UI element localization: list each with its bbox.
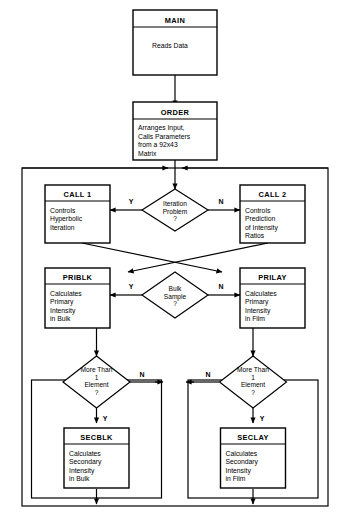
- node-call1-body-1: Hyperbolic: [50, 215, 83, 223]
- node-secblk-body-1: Secondary: [69, 458, 102, 466]
- decision-right-line-2: Element: [241, 381, 265, 388]
- node-order-body-1: Calls Parameters: [138, 133, 191, 140]
- decision-iteration-line-1: Problem: [163, 208, 188, 215]
- decision-right-line-0: More Than: [237, 366, 269, 373]
- node-secblk[interactable]: SECBLK Calculates Secondary Intensity in…: [64, 428, 129, 488]
- node-main-title: MAIN: [165, 16, 185, 25]
- node-priblk-body-3: in Bulk: [50, 315, 71, 322]
- label-right-decision-yes: Y: [260, 415, 265, 422]
- node-priblk-title: PRIBLK: [63, 273, 93, 282]
- decision-bulk-sample[interactable]: Bulk Sample ?: [142, 272, 208, 318]
- node-call2-title: CALL 2: [259, 190, 287, 199]
- node-priblk-body-0: Calculates: [50, 290, 82, 297]
- node-prilay-body-1: Primary: [245, 298, 269, 306]
- node-secblk-body-2: Intensity: [69, 467, 95, 475]
- label-bulk-no: N: [218, 283, 223, 290]
- decision-left-line-0: More Than: [81, 366, 113, 373]
- node-secblk-body-0: Calculates: [69, 450, 101, 457]
- node-order-body-0: Arranges Input,: [138, 124, 185, 132]
- node-main-body-0: Reads Data: [152, 42, 188, 49]
- node-order[interactable]: ORDER Arranges Input, Calls Parameters f…: [133, 102, 217, 160]
- node-prilay-body-2: Intensity: [245, 307, 271, 315]
- node-call2-body-3: Ratios: [245, 232, 265, 239]
- decision-right-line-1: 1: [251, 374, 255, 381]
- node-priblk[interactable]: PRIBLK Calculates Primary Intensity in B…: [45, 268, 110, 328]
- node-prilay-title: PRILAY: [258, 273, 287, 282]
- node-prilay-body-3: in Film: [245, 315, 265, 322]
- node-seclay-title: SECLAY: [237, 433, 268, 442]
- node-call1-body-2: Iteration: [50, 224, 75, 231]
- node-seclay-body-0: Calculates: [226, 450, 258, 457]
- decision-left-line-1: 1: [95, 374, 99, 381]
- decision-left-line-3: ?: [95, 389, 99, 396]
- label-iteration-yes: Y: [129, 198, 134, 205]
- decision-more-elements-left[interactable]: More Than 1 Element ?: [63, 356, 130, 408]
- node-call1-title: CALL 1: [64, 190, 92, 199]
- node-order-body-3: Matrix: [138, 150, 157, 157]
- decision-bulk-line-0: Bulk: [169, 285, 183, 292]
- node-seclay-body-1: Secondary: [226, 458, 259, 466]
- node-prilay-body-0: Calculates: [245, 290, 277, 297]
- decision-bulk-line-2: ?: [173, 300, 177, 307]
- node-seclay[interactable]: SECLAY Calculates Secondary Intensity in…: [221, 428, 286, 488]
- node-call2-body-0: Controls: [245, 207, 271, 214]
- node-order-title: ORDER: [161, 108, 190, 117]
- node-priblk-body-1: Primary: [50, 298, 74, 306]
- label-bulk-yes: Y: [129, 283, 134, 290]
- node-priblk-body-2: Intensity: [50, 307, 76, 315]
- label-left-decision-no: N: [139, 371, 144, 378]
- flowchart-svg: MAIN Reads Data ORDER Arranges Input, Ca…: [0, 0, 343, 525]
- label-iteration-no: N: [218, 198, 223, 205]
- decision-left-line-2: Element: [84, 381, 108, 388]
- node-main[interactable]: MAIN Reads Data: [133, 10, 217, 75]
- node-seclay-body-3: in Film: [226, 475, 246, 482]
- node-order-body-2: from a 92x43: [138, 141, 178, 148]
- decision-iteration-line-2: ?: [173, 215, 177, 222]
- node-prilay[interactable]: PRILAY Calculates Primary Intensity in F…: [240, 268, 305, 328]
- node-call1[interactable]: CALL 1 Controls Hyperbolic Iteration: [45, 185, 110, 243]
- label-left-decision-yes: Y: [103, 415, 108, 422]
- decision-iteration-problem[interactable]: Iteration Problem ?: [142, 189, 208, 231]
- decision-more-elements-right[interactable]: More Than 1 Element ?: [220, 356, 287, 408]
- node-secblk-title: SECBLK: [80, 433, 113, 442]
- decision-iteration-line-0: Iteration: [163, 200, 187, 207]
- label-right-decision-no: N: [205, 371, 210, 378]
- flowchart-canvas: MAIN Reads Data ORDER Arranges Input, Ca…: [0, 0, 343, 525]
- node-secblk-body-3: in Bulk: [69, 475, 90, 482]
- node-seclay-body-2: Intensity: [226, 467, 252, 475]
- node-call2-body-1: Prediction: [245, 215, 275, 222]
- decision-right-line-3: ?: [251, 389, 255, 396]
- node-call1-body-0: Controls: [50, 207, 76, 214]
- node-call2[interactable]: CALL 2 Controls Prediction of Intensity …: [240, 185, 305, 243]
- node-call2-body-2: of Intensity: [245, 224, 278, 232]
